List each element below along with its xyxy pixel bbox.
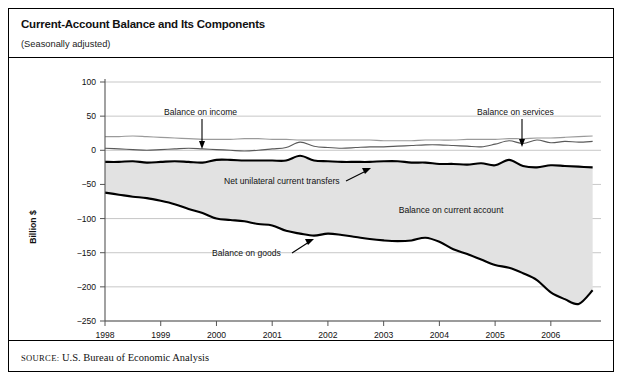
y-tick-label: −200 — [77, 282, 97, 292]
annotation-services-label: Balance on services — [477, 107, 554, 117]
source-text: U.S. Bureau of Economic Analysis — [62, 352, 209, 363]
figure-subtitle: (Seasonally adjusted) — [21, 39, 110, 49]
figure-frame: Current-Account Balance and Its Componen… — [8, 8, 614, 372]
annotation-current-account-label: Balance on current account — [399, 205, 504, 215]
y-tick-label: −50 — [81, 179, 96, 189]
annotation-goods-arrow — [292, 242, 309, 253]
x-tick-label: 2006 — [541, 330, 560, 340]
source-note: SOURCE: U.S. Bureau of Economic Analysis — [21, 352, 209, 363]
annotation-transfers-label: Net unilateral current transfers — [224, 176, 340, 186]
annotation-goods: Balance on goods — [212, 239, 314, 258]
annotation-income-label: Balance on income — [164, 107, 237, 117]
x-tick-label: 2004 — [430, 330, 449, 340]
y-tick-label: −100 — [77, 214, 97, 224]
y-axis-title: Billion $ — [28, 210, 38, 244]
x-tick-label: 2005 — [486, 330, 505, 340]
chart-svg: 100500−50−100−150−200−250199819992000200… — [9, 57, 615, 343]
chart-plot-area: 100500−50−100−150−200−250199819992000200… — [9, 57, 615, 343]
x-tick-label: 1999 — [151, 330, 170, 340]
x-tick-label: 2003 — [374, 330, 393, 340]
current-account-band — [105, 156, 593, 304]
source-label: SOURCE: — [21, 353, 59, 363]
x-tick-label: 2002 — [318, 330, 337, 340]
x-tick-label: 2001 — [263, 330, 282, 340]
annotation-income: Balance on income — [164, 107, 237, 149]
page-title: Current-Account Balance and Its Componen… — [21, 18, 265, 30]
y-tick-label: 0 — [91, 145, 96, 155]
y-tick-label: 50 — [86, 111, 96, 121]
y-tick-label: −250 — [77, 316, 97, 326]
series-line — [105, 140, 593, 151]
annotation-income-arrowhead — [199, 141, 205, 149]
y-tick-label: −150 — [77, 248, 97, 258]
y-tick-label: 100 — [82, 77, 97, 87]
x-tick-label: 2000 — [207, 330, 226, 340]
source-divider — [9, 340, 613, 341]
annotation-goods-label: Balance on goods — [212, 248, 281, 258]
x-tick-label: 1998 — [95, 330, 114, 340]
